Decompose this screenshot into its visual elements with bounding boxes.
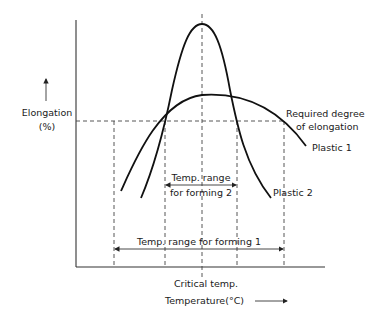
plastic-1-label: Plastic 1 <box>312 142 352 153</box>
y-axis-label: Elongation <box>22 107 73 118</box>
required-degree-label: Required degree <box>286 108 365 119</box>
forming2-range-label: Temp. range <box>171 172 231 183</box>
required-degree-label-2: of elongation <box>296 121 359 132</box>
forming1-range-label: Temp. range for forming 1 <box>136 236 261 247</box>
y-axis-unit: (%) <box>39 121 55 132</box>
x-axis-label: Temperature(°C) <box>164 295 244 306</box>
critical-temp-label: Critical temp. <box>174 278 238 289</box>
forming2-range-label-2: for forming 2 <box>170 187 232 198</box>
elongation-temperature-diagram: Elongation (%) Required degree of elonga… <box>0 0 384 318</box>
plastic-2-label: Plastic 2 <box>273 187 313 198</box>
